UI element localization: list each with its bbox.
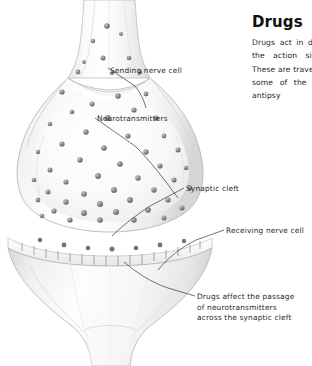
label-synaptic-cleft: Synaptic cleft [186, 184, 239, 193]
label-neurotransmitters: Neurotransmitters [97, 114, 168, 123]
illustration-page: Sending nerve cell Neurotransmitters Syn… [0, 0, 312, 366]
synapse-illustration [0, 0, 230, 366]
article-body: Drugs act in different ways at the actio… [252, 36, 312, 102]
receiving-neuron-shape [8, 248, 212, 366]
article-heading: Drugs [252, 13, 303, 31]
label-sending-nerve-cell: Sending nerve cell [110, 66, 182, 75]
axon-terminal-bulb-shape [17, 78, 203, 232]
article-text-column: Drugs Drugs act in different ways at the… [252, 0, 312, 366]
cleft-transmitter-dots [38, 238, 186, 252]
article-body-paragraph: Drugs act in different ways at the actio… [252, 36, 312, 102]
